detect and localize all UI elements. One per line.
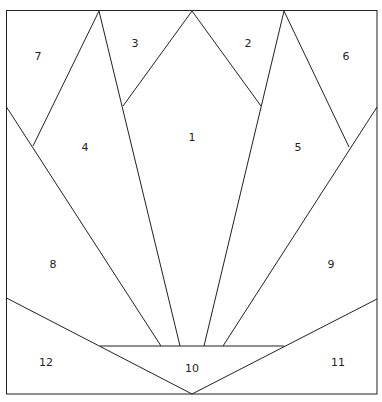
- piece-7-edge: [33, 11, 99, 146]
- piece-5-right-edge: [204, 11, 284, 346]
- piece-4-left-edge: [99, 11, 180, 346]
- piece-label-7: 7: [35, 50, 42, 63]
- piece-label-12: 12: [39, 356, 53, 369]
- outer-border: [7, 11, 378, 395]
- piece-label-11: 11: [331, 356, 345, 369]
- piece-1-edge: [123, 11, 261, 106]
- piece-label-6: 6: [343, 50, 350, 63]
- piece-label-4: 4: [82, 141, 89, 154]
- piece-label-2: 2: [245, 37, 252, 50]
- piece-6-edge: [284, 11, 349, 147]
- piece-label-1: 1: [189, 131, 196, 144]
- piece-label-5: 5: [295, 141, 302, 154]
- piece-label-8: 8: [50, 258, 57, 271]
- piece-label-10: 10: [185, 362, 199, 375]
- piece-label-3: 3: [132, 37, 139, 50]
- piece-label-9: 9: [328, 258, 335, 271]
- quilt-pattern-lines: [0, 0, 382, 402]
